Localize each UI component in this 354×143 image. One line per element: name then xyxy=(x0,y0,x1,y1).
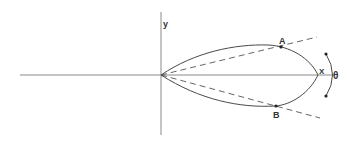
point-a-label: A xyxy=(279,36,286,46)
point-x-label: X xyxy=(319,67,325,76)
dashed-line-upper xyxy=(161,37,317,75)
point-b-marker xyxy=(274,104,277,107)
point-b-label: B xyxy=(273,110,280,120)
arc-end-bottom xyxy=(324,94,327,97)
y-axis-label: y xyxy=(163,19,168,29)
diagram-canvas: y A B X θ xyxy=(0,0,354,143)
arc-end-top xyxy=(324,52,327,55)
dashed-line-lower xyxy=(161,75,320,118)
teardrop-curve xyxy=(161,45,318,106)
angle-theta-label: θ xyxy=(333,70,338,81)
